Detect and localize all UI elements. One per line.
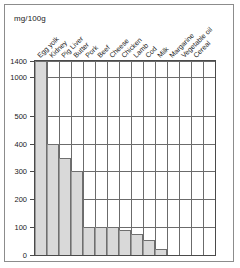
y-tick-label-100: 100 bbox=[14, 223, 27, 232]
bar-cod bbox=[143, 240, 155, 255]
bar-kidney bbox=[47, 144, 59, 255]
gridline-500 bbox=[35, 116, 215, 117]
y-tick-label-200: 200 bbox=[14, 195, 27, 204]
bar-pig-liver bbox=[59, 158, 71, 256]
bar-cheese bbox=[107, 227, 119, 255]
y-tick-label-400: 400 bbox=[14, 139, 27, 148]
gridline-1400 bbox=[35, 61, 215, 62]
bar-beef bbox=[95, 227, 107, 255]
bar-egg-yolk bbox=[35, 61, 47, 255]
column-separator bbox=[167, 61, 168, 255]
category-axis-labels: Egg yolkKidneyPig LiverButterPorkBeefChe… bbox=[34, 5, 216, 60]
column-separator bbox=[119, 61, 120, 255]
column-separator bbox=[131, 61, 132, 255]
bar-chicken bbox=[119, 230, 131, 255]
gridline-1000 bbox=[35, 77, 215, 78]
bar-milk bbox=[155, 249, 167, 255]
y-tick-label-0: 0 bbox=[23, 251, 27, 260]
y-axis: 010020030040050010001400 bbox=[5, 5, 34, 268]
column-separator bbox=[143, 61, 144, 255]
gridline-400 bbox=[35, 144, 215, 145]
column-separator bbox=[155, 61, 156, 255]
column-separator bbox=[191, 61, 192, 255]
bar-pork bbox=[83, 227, 95, 255]
y-tick-label-500: 500 bbox=[14, 111, 27, 120]
y-tick-label-300: 300 bbox=[14, 167, 27, 176]
plot-area bbox=[34, 60, 216, 256]
y-tick-label-1400: 1400 bbox=[10, 57, 27, 66]
y-tick-label-1000: 1000 bbox=[10, 72, 27, 81]
column-separator bbox=[95, 61, 96, 255]
bar-butter bbox=[71, 171, 83, 255]
column-separator bbox=[83, 61, 84, 255]
bar-lamb bbox=[131, 234, 143, 255]
column-separator bbox=[203, 61, 204, 255]
chart-frame: mg/100g Egg yolkKidneyPig LiverButterPor… bbox=[4, 4, 234, 262]
column-separator bbox=[107, 61, 108, 255]
column-separator bbox=[179, 61, 180, 255]
